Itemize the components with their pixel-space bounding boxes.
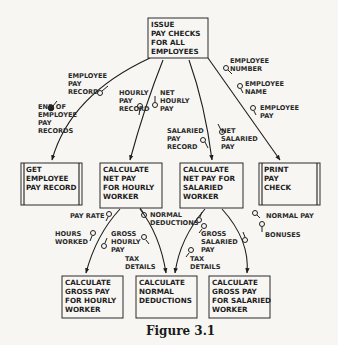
module-label: WORKER [212,305,248,314]
module-label: CHECK [264,183,291,192]
svg-text:HOURLY: HOURLY [119,89,149,97]
module-label: FOR ALL [151,38,185,47]
couple-hours-worked: HOURS WORKED [55,230,89,246]
svg-text:GROSS: GROSS [201,230,227,238]
module-calc-net-pay-salaried[interactable]: CALCULATE NET PAY FOR SALARIED WORKER [180,163,243,208]
module-print-pay-check[interactable]: PRINT PAY CHECK [259,163,320,205]
svg-text:PAY: PAY [68,80,82,88]
couple-employee-pay-record: EMPLOYEE PAY RECORD [68,72,108,96]
svg-text:END OF: END OF [38,103,66,111]
svg-text:BONUSES: BONUSES [265,231,301,239]
module-label: GET [26,165,42,174]
svg-text:HOURLY: HOURLY [160,97,190,105]
couple-net-salaried-pay: NET SALARIED PAY [221,127,258,151]
couple-hourly-pay-record: HOURLY PAY RECORD [119,89,150,113]
module-label: NET PAY [103,174,137,183]
module-label: PAY [264,174,279,183]
couple-bonuses: BONUSES [265,231,301,239]
module-calc-normal-deductions[interactable]: CALCULATE NORMAL DEDUCTIONS [136,276,197,318]
module-label: CALCULATE [139,278,185,287]
svg-text:NORMAL PAY: NORMAL PAY [266,212,314,220]
module-label: GROSS PAY [65,287,111,296]
figure-caption: Figure 3.1 [146,324,215,338]
module-label: ISSUE [151,20,175,29]
svg-text:PAY RATE: PAY RATE [70,212,105,220]
couple-pay-rate: PAY RATE [70,212,105,220]
svg-text:SALARIED: SALARIED [167,127,204,135]
module-label: WORKER [65,305,101,314]
couple-employee-pay: EMPLOYEE PAY [260,104,300,120]
svg-text:EMPLOYEE: EMPLOYEE [230,57,270,65]
module-label: PRINT [264,165,288,174]
module-label: FOR SALARIED [212,296,271,305]
module-label: DEDUCTIONS [139,296,192,305]
svg-text:WORKED: WORKED [55,238,89,246]
module-label: WORKER [103,192,139,201]
svg-text:NET: NET [221,127,236,135]
svg-text:EMPLOYEE: EMPLOYEE [260,104,300,112]
svg-text:PAY: PAY [221,143,235,151]
svg-text:PAY: PAY [167,135,181,143]
module-label: CALCULATE [212,278,258,287]
couple-employee-name: EMPLOYEE NAME [245,80,285,96]
svg-text:GROSS: GROSS [111,230,137,238]
module-issue-pay-checks[interactable]: ISSUE PAY CHECKS FOR ALL EMPLOYEES [148,18,208,58]
svg-text:RECORDS: RECORDS [38,127,74,135]
svg-text:NUMBER: NUMBER [230,65,262,73]
couple-salaried-pay-record: SALARIED PAY RECORD [167,127,204,151]
module-label: GROSS PAY [212,287,258,296]
svg-text:TAX: TAX [190,255,204,263]
module-label: SALARIED [183,183,223,192]
svg-text:RECORD: RECORD [68,88,99,96]
module-label: CALCULATE [183,165,229,174]
couple-net-hourly-pay: NET HOURLY PAY [160,89,190,113]
svg-text:DEDUCTIONS: DEDUCTIONS [150,219,199,227]
couple-normal-deductions: NORMAL DEDUCTIONS [150,211,199,227]
module-label: FOR HOURLY [103,183,155,192]
module-calc-gross-pay-hourly[interactable]: CALCULATE GROSS PAY FOR HOURLY WORKER [62,276,123,318]
module-label: PAY RECORD [26,183,77,192]
module-label: EMPLOYEE [26,174,69,183]
svg-text:DETAILS: DETAILS [190,263,221,271]
svg-text:PAY: PAY [38,119,52,127]
module-get-employee-pay-record[interactable]: GET EMPLOYEE PAY RECORD [21,163,82,205]
svg-text:RECORD: RECORD [167,143,198,151]
structure-chart: ISSUE PAY CHECKS FOR ALL EMPLOYEES GET E… [0,0,338,345]
svg-text:DETAILS: DETAILS [125,263,156,271]
svg-text:NET: NET [160,89,175,97]
module-label: WORKER [183,192,219,201]
svg-text:PAY: PAY [201,246,215,254]
couple-employee-number: EMPLOYEE NUMBER [230,57,270,73]
svg-text:EMPLOYEE: EMPLOYEE [245,80,285,88]
module-label: NORMAL [139,287,174,296]
module-label: CALCULATE [103,165,149,174]
couple-tax-details-salaried: TAX DETAILS [190,255,221,271]
module-calc-gross-pay-salaried[interactable]: CALCULATE GROSS PAY FOR SALARIED WORKER [209,276,271,318]
module-label: PAY CHECKS [151,29,200,38]
module-label: CALCULATE [65,278,111,287]
svg-text:HOURLY: HOURLY [111,238,141,246]
svg-text:PAY: PAY [119,97,133,105]
module-label: FOR HOURLY [65,296,117,305]
svg-text:SALARIED: SALARIED [201,238,238,246]
svg-text:HOURS: HOURS [55,230,82,238]
svg-text:TAX: TAX [125,255,139,263]
svg-text:SALARIED: SALARIED [221,135,258,143]
svg-text:NORMAL: NORMAL [150,211,183,219]
couple-gross-hourly-pay: GROSS HOURLY PAY [111,230,141,254]
svg-text:EMPLOYEE: EMPLOYEE [68,72,108,80]
svg-text:PAY: PAY [260,112,274,120]
module-label: EMPLOYEES [151,47,199,56]
couple-gross-salaried-pay: GROSS SALARIED PAY [201,230,238,254]
svg-text:NAME: NAME [245,88,267,96]
module-label: NET PAY FOR [183,174,236,183]
couple-normal-pay: NORMAL PAY [266,212,314,220]
couple-tax-details-hourly: TAX DETAILS [125,255,156,271]
svg-text:PAY: PAY [160,105,174,113]
svg-text:PAY: PAY [111,246,125,254]
svg-text:EMPLOYEE: EMPLOYEE [38,111,78,119]
module-calc-net-pay-hourly[interactable]: CALCULATE NET PAY FOR HOURLY WORKER [100,163,162,208]
svg-text:RECORD: RECORD [119,105,150,113]
